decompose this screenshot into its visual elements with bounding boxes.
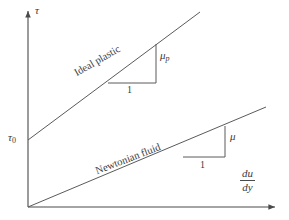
ideal-plastic-run-label: 1 bbox=[127, 85, 132, 95]
newtonian-slope-label: μ bbox=[230, 131, 236, 142]
newtonian-run-label: 1 bbox=[200, 160, 205, 170]
mu-subscript: p bbox=[166, 54, 170, 63]
x-axis-numerator: du bbox=[240, 168, 255, 181]
ideal-plastic-slope-label: μp bbox=[160, 50, 170, 63]
y-axis-label: τ bbox=[35, 5, 39, 16]
x-axis-denominator: dy bbox=[240, 181, 255, 193]
x-axis-label: du dy bbox=[240, 168, 255, 193]
ideal-plastic-line bbox=[28, 12, 200, 140]
y-intercept-subscript: 0 bbox=[12, 136, 16, 145]
rheology-diagram: τ τ0 du dy Ideal plastic Newtonian fluid… bbox=[0, 0, 289, 220]
y-intercept-label: τ0 bbox=[8, 132, 16, 145]
